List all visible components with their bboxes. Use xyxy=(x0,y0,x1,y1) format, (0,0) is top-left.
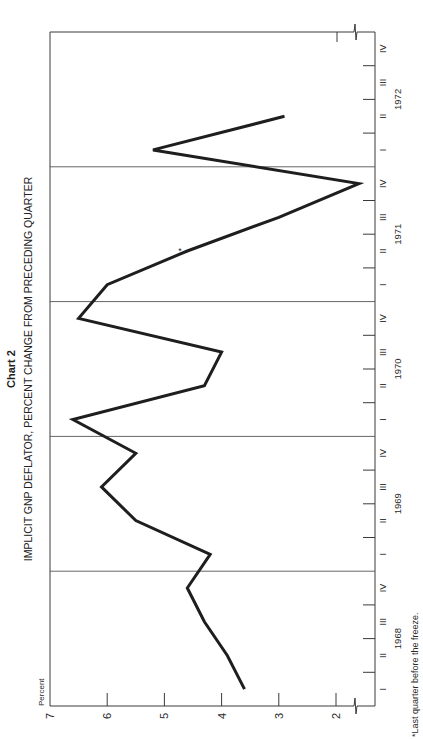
year-label: 1969 xyxy=(392,493,403,514)
year-label: 1972 xyxy=(392,89,403,110)
quarter-label: I xyxy=(378,418,388,421)
quarter-label: II xyxy=(378,518,388,523)
year-label: 1971 xyxy=(392,224,403,245)
quarter-label: IV xyxy=(378,45,388,54)
value-tick-label: 7 xyxy=(44,713,56,719)
chart: Chart 2 IMPLICIT GNP DEFLATOR, PERCENT C… xyxy=(0,0,423,739)
axis-break-icon xyxy=(352,24,362,714)
quarter-label: III xyxy=(378,79,388,87)
footnote: *Last quarter before the freeze. xyxy=(410,612,420,737)
quarter-label: II xyxy=(378,114,388,119)
year-label: 1970 xyxy=(392,358,403,379)
quarter-label: I xyxy=(378,688,388,691)
data-series-line xyxy=(73,116,359,689)
quarter-label: IV xyxy=(378,449,388,458)
chart-subtitle: IMPLICIT GNP DEFLATOR, PERCENT CHANGE FR… xyxy=(22,176,34,561)
y-axis-label: Percent xyxy=(37,678,46,706)
value-tick-label: 3 xyxy=(273,713,285,719)
quarter-label: IV xyxy=(378,314,388,323)
quarter-label: III xyxy=(378,618,388,626)
quarter-label: II xyxy=(378,249,388,254)
quarter-label: I xyxy=(378,149,388,152)
quarter-label: III xyxy=(378,214,388,222)
quarter-label: IV xyxy=(378,584,388,593)
quarter-label: II xyxy=(378,653,388,658)
freeze-asterisk-marker: * xyxy=(178,246,182,256)
quarter-label: IV xyxy=(378,179,388,188)
quarter-label: III xyxy=(378,483,388,491)
value-tick-label: 4 xyxy=(216,713,228,719)
chart-title: Chart 2 xyxy=(5,350,17,388)
value-tick-label: 6 xyxy=(101,713,113,719)
quarter-label: III xyxy=(378,348,388,356)
quarter-label: I xyxy=(378,553,388,556)
quarter-label: II xyxy=(378,383,388,388)
year-label: 1968 xyxy=(392,628,403,649)
time-axis: IIIIIIIVIIIIIIIVIIIIIIIVIIIIIIIVIIIIIIIV… xyxy=(337,32,403,690)
quarter-label: I xyxy=(378,283,388,286)
value-tick-label: 5 xyxy=(158,713,170,719)
value-tick-label: 2 xyxy=(330,713,342,719)
